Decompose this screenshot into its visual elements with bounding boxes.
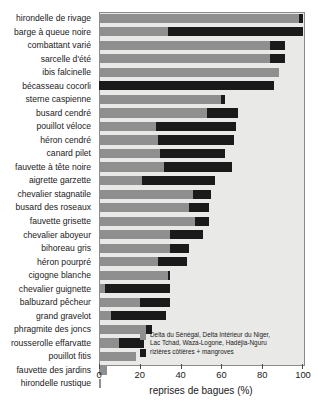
bar-row: [99, 39, 303, 53]
bar-segment-sahel: [99, 27, 168, 36]
y-axis-label: pouillot véloce: [0, 120, 95, 134]
y-axis-label: bécasseau cocorli: [0, 80, 95, 94]
y-axis-label: chevalier guignette: [0, 283, 95, 297]
y-axis-label: fauvette des jardins: [0, 364, 95, 378]
bar-segment-sahel: [99, 122, 156, 131]
bar-segment-sahel: [99, 95, 221, 104]
bar-row: [99, 93, 303, 107]
bar-row: [99, 80, 303, 94]
y-axis-label: fauvette à tête noire: [0, 161, 95, 175]
bar-segment-sahel: [99, 14, 299, 23]
bar-segment-sahel: [99, 352, 136, 361]
bar-segment-rizieres: [99, 81, 274, 90]
bar-row: [99, 256, 303, 270]
bar-row: [99, 174, 303, 188]
bar-row: [99, 188, 303, 202]
bar-segment-sahel: [99, 244, 170, 253]
y-axis-label: sterne caspienne: [0, 93, 95, 107]
y-axis-label: chevalier stagnatile: [0, 188, 95, 202]
y-axis-label: balbuzard pêcheur: [0, 296, 95, 310]
x-axis-tick-label: 0: [96, 369, 101, 380]
bar-segment-sahel: [99, 149, 160, 158]
legend-entry: Delta du Sénégal, Delta Intérieur du Nig…: [140, 331, 300, 346]
bar-segment-sahel: [99, 41, 270, 50]
y-axis-label: rousserolle effarvatte: [0, 337, 95, 351]
bar-row: [99, 296, 303, 310]
y-axis-label: grand gravelot: [0, 310, 95, 324]
bar-row: [99, 53, 303, 67]
bar-segment-sahel: [99, 271, 168, 280]
legend-swatch-grey: [140, 332, 146, 340]
legend-entry: rizières côtières + mangroves: [140, 348, 300, 357]
y-axis-label: sarcelle d'été: [0, 53, 95, 67]
y-axis-labels: hirondelle de rivagebarge à queue noirec…: [0, 12, 95, 364]
bar-row: [99, 215, 303, 229]
bar-row: [99, 107, 303, 121]
bar-segment-sahel: [99, 176, 142, 185]
bar-segment-sahel: [99, 230, 170, 239]
bar-segment-sahel: [99, 190, 193, 199]
y-axis-label: busard des roseaux: [0, 201, 95, 215]
bar-segment-sahel: [99, 284, 105, 293]
bar-segment-rizieres: [99, 284, 170, 293]
y-axis-label: combattant varié: [0, 39, 95, 53]
y-axis-label: canard pilet: [0, 147, 95, 161]
y-axis-label: cigogne blanche: [0, 269, 95, 283]
x-axis-tick-labels: 020406080100: [99, 369, 303, 383]
y-axis-label: chevalier aboyeur: [0, 229, 95, 243]
bar-row: [99, 269, 303, 283]
y-axis-label: pouillot fitis: [0, 350, 95, 364]
x-axis-tick-label: 60: [216, 369, 226, 380]
x-axis-tick-label: 80: [257, 369, 267, 380]
x-axis-title: reprises de bagues (%): [99, 385, 303, 396]
y-axis-label: hirondelle rustique: [0, 377, 95, 391]
bar-segment-sahel: [99, 162, 164, 171]
x-axis-tick-label: 20: [135, 369, 145, 380]
y-axis-label: fauvette grisette: [0, 215, 95, 229]
y-axis-label: bihoreau gris: [0, 242, 95, 256]
bar-row: [99, 12, 303, 26]
y-axis-label: héron pourpré: [0, 256, 95, 270]
y-axis-label: héron cendré: [0, 134, 95, 148]
y-axis-label: phragmite des joncs: [0, 323, 95, 337]
bar-segment-sahel: [99, 257, 158, 266]
y-axis-label: ibis falcinelle: [0, 66, 95, 80]
bar-row: [99, 161, 303, 175]
legend-label: Delta du Sénégal, Delta Intérieur du Nig…: [150, 331, 270, 346]
bar-row: [99, 134, 303, 148]
x-axis-tick-label: 100: [295, 369, 311, 380]
bar-rows: [99, 12, 303, 364]
legend-label: rizières côtières + mangroves: [150, 348, 234, 356]
bar-segment-sahel: [99, 311, 111, 320]
bar-segment-sahel: [99, 108, 207, 117]
bar-row: [99, 201, 303, 215]
bar-segment-sahel: [99, 338, 119, 347]
bar-row: [99, 283, 303, 297]
y-axis-label: barge à queue noire: [0, 26, 95, 40]
bar-segment-sahel: [99, 135, 158, 144]
y-axis-label: aigrette garzette: [0, 174, 95, 188]
bar-segment-sahel: [99, 203, 189, 212]
bar-row: [99, 26, 303, 40]
bar-row: [99, 147, 303, 161]
bar-row: [99, 66, 303, 80]
legend-swatch-black: [140, 349, 146, 357]
bar-segment-sahel: [99, 68, 279, 77]
y-axis-label: hirondelle de rivage: [0, 12, 95, 26]
bar-segment-sahel: [99, 325, 146, 334]
legend: Delta du Sénégal, Delta Intérieur du Nig…: [140, 331, 300, 359]
bar-row: [99, 310, 303, 324]
bar-row: [99, 242, 303, 256]
bar-segment-sahel: [99, 217, 195, 226]
bar-segment-sahel: [99, 54, 270, 63]
bar-segment-sahel: [99, 298, 140, 307]
y-axis-label: busard cendré: [0, 107, 95, 121]
bar-row: [99, 229, 303, 243]
bar-row: [99, 120, 303, 134]
bar-chart: hirondelle de rivagebarge à queue noirec…: [0, 0, 318, 412]
x-axis-tick-label: 40: [175, 369, 185, 380]
